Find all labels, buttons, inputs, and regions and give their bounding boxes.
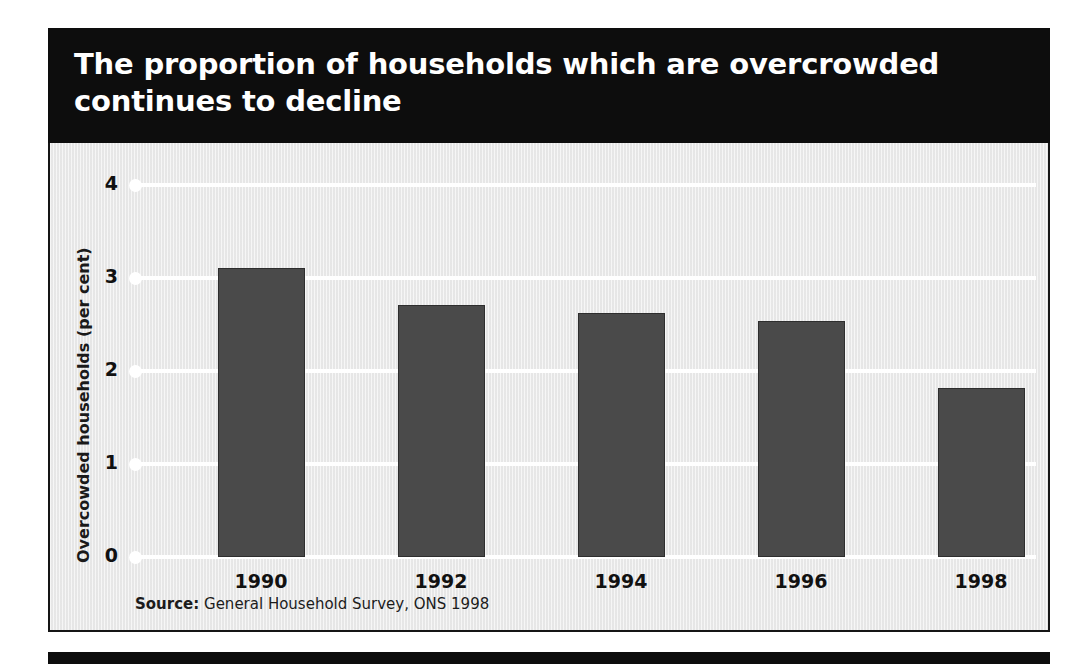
y-tick-label: 4 bbox=[78, 172, 118, 194]
gridline-dot bbox=[129, 179, 142, 192]
y-tick-label: 3 bbox=[78, 265, 118, 287]
bottom-black-band bbox=[48, 652, 1050, 664]
gridline-dot bbox=[129, 458, 142, 471]
x-tick-label-1994: 1994 bbox=[551, 570, 691, 592]
gridline bbox=[136, 183, 1036, 187]
source-line: Source: General Household Survey, ONS 19… bbox=[135, 595, 489, 613]
y-tick-label: 2 bbox=[78, 358, 118, 380]
gridline-dot bbox=[129, 272, 142, 285]
bar-1992 bbox=[398, 305, 485, 557]
chart-figure: The proportion of households which are o… bbox=[0, 0, 1084, 664]
chart-title-band: The proportion of households which are o… bbox=[48, 28, 1050, 143]
x-tick-label-1996: 1996 bbox=[731, 570, 871, 592]
x-tick-label-1990: 1990 bbox=[191, 570, 331, 592]
source-text: General Household Survey, ONS 1998 bbox=[199, 595, 489, 613]
gridline-dot bbox=[129, 365, 142, 378]
source-label: Source: bbox=[135, 595, 199, 613]
bar-1998 bbox=[938, 388, 1025, 557]
chart-plot-panel: Overcowded households (per cent) 01234 1… bbox=[48, 143, 1050, 632]
bar-1990 bbox=[218, 268, 305, 557]
x-tick-label-1992: 1992 bbox=[371, 570, 511, 592]
gridline-dot bbox=[129, 551, 142, 564]
bar-1994 bbox=[578, 313, 665, 557]
y-tick-label: 0 bbox=[78, 544, 118, 566]
bar-1996 bbox=[758, 321, 845, 557]
y-axis-title: Overcowded households (per cent) bbox=[74, 263, 100, 563]
x-tick-label-1998: 1998 bbox=[911, 570, 1051, 592]
chart-title: The proportion of households which are o… bbox=[74, 46, 1024, 120]
y-tick-label: 1 bbox=[78, 451, 118, 473]
